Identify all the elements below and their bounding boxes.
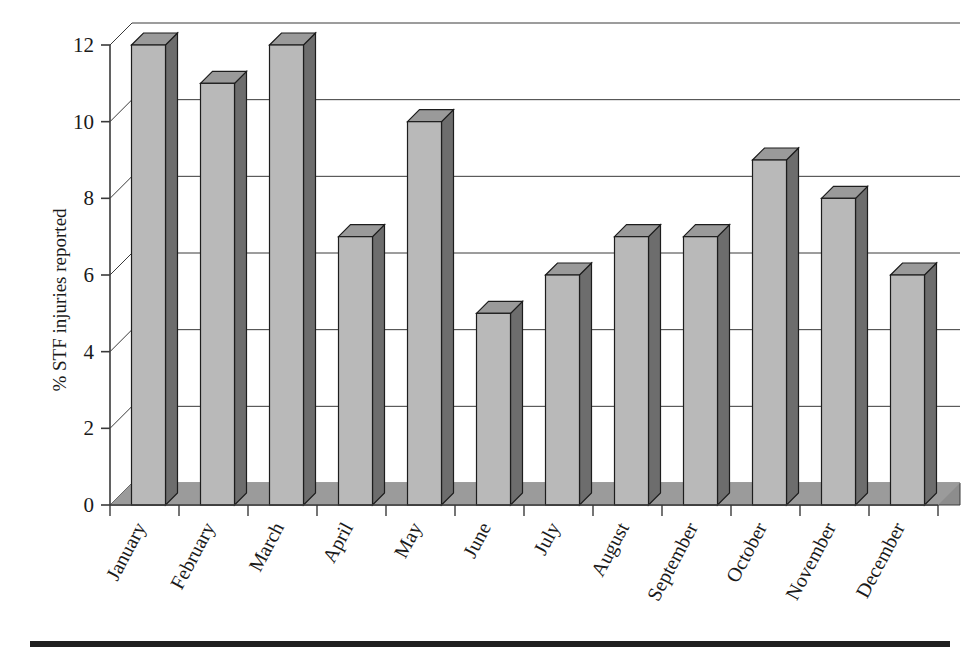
y-tick-label: 2 — [84, 416, 95, 440]
bar-august — [615, 225, 661, 505]
bar-november — [822, 186, 868, 505]
bar-april — [339, 225, 385, 505]
svg-text:% STF injuries reported: % STF injuries reported — [49, 208, 70, 392]
bottom-rule — [30, 641, 950, 647]
y-tick-label: 6 — [84, 263, 95, 287]
bar-february — [201, 71, 247, 505]
bar-march — [270, 33, 316, 505]
bar-chart-svg: 024681012 JanuaryFebruaryMarchAprilMayJu… — [0, 0, 971, 663]
bar-january — [132, 33, 178, 505]
bar-july — [546, 263, 592, 505]
bar-june — [477, 301, 523, 505]
bar-december — [891, 263, 937, 505]
bar-may — [408, 110, 454, 505]
y-tick-label: 12 — [73, 33, 94, 57]
bar-september — [684, 225, 730, 505]
y-tick-label: 10 — [73, 110, 94, 134]
chart-figure: 024681012 JanuaryFebruaryMarchAprilMayJu… — [0, 0, 971, 663]
bar-october — [753, 148, 799, 505]
y-tick-label: 0 — [84, 493, 95, 517]
y-tick-label: 4 — [84, 340, 95, 364]
y-axis-title: % STF injuries reported — [49, 208, 70, 392]
y-tick-label: 8 — [84, 186, 95, 210]
